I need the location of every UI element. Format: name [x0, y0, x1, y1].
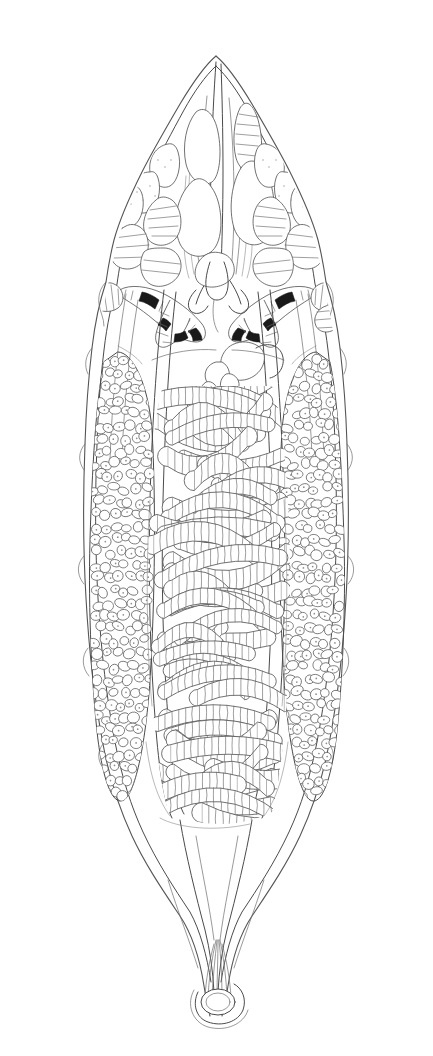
follicle-nucleus: [336, 500, 338, 502]
follicle-nucleus: [329, 449, 331, 451]
follicle-nucleus: [118, 426, 120, 428]
vitelline-follicle: [121, 525, 131, 532]
follicle-nucleus: [124, 765, 126, 767]
follicle-nucleus: [107, 427, 109, 429]
follicle-nucleus: [319, 474, 321, 476]
follicle-nucleus: [339, 552, 341, 554]
follicle-nucleus: [326, 602, 328, 604]
follicle-nucleus: [114, 360, 116, 362]
follicle-nucleus: [117, 536, 119, 538]
follicle-nucleus: [297, 473, 299, 475]
follicle-nucleus: [315, 678, 317, 680]
follicle-nucleus: [123, 359, 125, 361]
follicle-nucleus: [148, 453, 150, 455]
follicle-nucleus: [298, 396, 300, 398]
follicle-nucleus: [144, 435, 146, 437]
follicle-nucleus: [130, 603, 132, 605]
follicle-nucleus: [324, 413, 326, 415]
follicle-nucleus: [312, 566, 314, 568]
follicle-nucleus: [303, 744, 305, 746]
follicle-nucleus: [303, 486, 305, 488]
follicle-nucleus: [122, 614, 124, 616]
follicle-nucleus: [108, 682, 110, 684]
follicle-nucleus: [94, 538, 96, 540]
figure-root: [0, 0, 433, 1056]
follicle-nucleus: [318, 575, 320, 577]
follicle-nucleus: [106, 720, 108, 722]
follicle-nucleus: [131, 553, 133, 555]
follicle-nucleus: [308, 452, 310, 454]
follicle-nucleus: [286, 491, 288, 493]
follicle-nucleus: [306, 593, 308, 595]
follicle-nucleus: [291, 655, 293, 657]
follicle-nucleus: [315, 641, 317, 643]
follicle-nucleus: [326, 756, 328, 758]
follicle-nucleus: [298, 704, 300, 706]
follicle-nucleus: [326, 742, 328, 744]
follicle-nucleus: [316, 402, 318, 404]
follicle-nucleus: [334, 642, 336, 644]
follicle-nucleus: [318, 780, 320, 782]
follicle-nucleus: [300, 656, 302, 658]
follicle-nucleus: [128, 374, 130, 376]
follicle-nucleus: [296, 729, 298, 731]
follicle-nucleus: [117, 625, 119, 627]
follicle-nucleus: [132, 363, 134, 365]
follicle-nucleus: [115, 513, 117, 515]
follicle-nucleus: [135, 387, 137, 389]
follicle-nucleus: [300, 778, 302, 780]
follicle-nucleus: [336, 628, 338, 630]
follicle-nucleus: [292, 389, 294, 391]
follicle-nucleus: [148, 501, 150, 503]
follicle-nucleus: [307, 755, 309, 757]
follicle-nucleus: [319, 524, 321, 526]
follicle-nucleus: [109, 757, 111, 759]
follicle-nucleus: [287, 574, 289, 576]
follicle-nucleus: [334, 617, 336, 619]
follicle-nucleus: [95, 590, 97, 592]
follicle-nucleus: [106, 651, 108, 653]
follicle-nucleus: [310, 627, 312, 629]
follicle-nucleus: [143, 617, 145, 619]
follicle-nucleus: [112, 739, 114, 741]
follicle-nucleus: [106, 529, 108, 531]
follicle-nucleus: [122, 592, 124, 594]
follicle-nucleus: [330, 401, 332, 403]
follicle-nucleus: [131, 726, 133, 728]
follicle-nucleus: [294, 488, 296, 490]
follicle-nucleus: [135, 488, 137, 490]
follicle-nucleus: [112, 615, 114, 617]
follicle-nucleus: [302, 616, 304, 618]
follicle-nucleus: [334, 464, 336, 466]
follicle-nucleus: [149, 473, 151, 475]
follicle-nucleus: [304, 413, 306, 415]
vitelline-follicle: [102, 446, 111, 455]
follicle-nucleus: [97, 714, 99, 716]
follicle-nucleus: [93, 642, 95, 644]
follicle-nucleus: [135, 742, 137, 744]
follicle-nucleus: [296, 681, 298, 683]
follicle-nucleus: [106, 476, 108, 478]
follicle-nucleus: [101, 472, 103, 474]
follicle-nucleus: [117, 575, 119, 577]
follicle-nucleus: [125, 691, 127, 693]
follicle-nucleus: [96, 529, 98, 531]
follicle-nucleus: [140, 575, 142, 577]
follicle-nucleus: [133, 642, 135, 644]
follicle-nucleus: [341, 579, 343, 581]
follicle-nucleus: [113, 643, 115, 645]
follicle-nucleus: [287, 625, 289, 627]
follicle-nucleus: [323, 719, 325, 721]
follicle-nucleus: [131, 575, 133, 577]
follicle-nucleus: [299, 630, 301, 632]
follicle-nucleus: [303, 567, 305, 569]
follicle-nucleus: [136, 437, 138, 439]
follicle-nucleus: [300, 451, 302, 453]
follicle-nucleus: [329, 554, 331, 556]
follicle-nucleus: [117, 373, 119, 375]
follicle-nucleus: [318, 375, 320, 377]
follicle-nucleus: [290, 728, 292, 730]
follicle-nucleus: [139, 478, 141, 480]
follicle-nucleus: [301, 524, 303, 526]
follicle-nucleus: [129, 754, 131, 756]
